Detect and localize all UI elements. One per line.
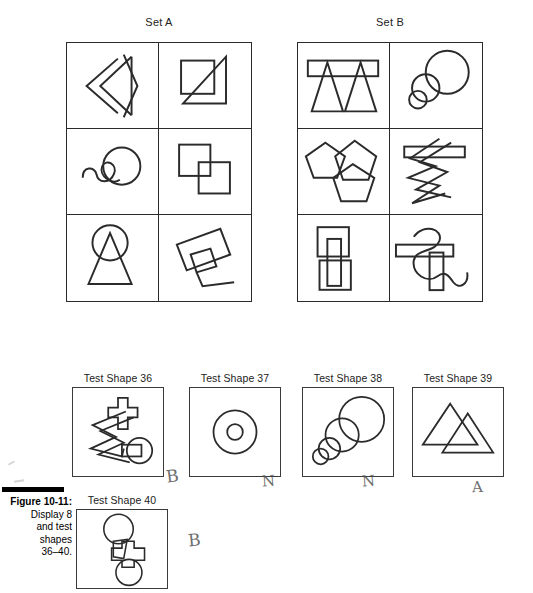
test-shape-36-box bbox=[72, 387, 164, 477]
test-shape-40-box bbox=[76, 509, 168, 589]
test-shape-38-box bbox=[302, 387, 394, 477]
caption-rule bbox=[2, 487, 64, 492]
handwritten-answer-36: B bbox=[165, 465, 180, 487]
set-b-grid bbox=[297, 42, 483, 302]
set-a-cell-circle-with-triangle bbox=[67, 215, 159, 301]
test-shape-40-label: Test Shape 40 bbox=[68, 494, 176, 506]
handwritten-answer-38: N bbox=[361, 472, 375, 491]
set-a-cell-squiggle-with-circle bbox=[67, 129, 159, 215]
handwritten-answer-40: B bbox=[187, 529, 202, 550]
set-b-label: Set B bbox=[297, 16, 483, 28]
caption-title: Figure 10-11: bbox=[0, 496, 72, 509]
scan-artifact-lower bbox=[14, 479, 24, 482]
handwritten-answer-37: N bbox=[261, 472, 275, 491]
test-shape-39-box bbox=[412, 387, 504, 477]
figure-caption: Figure 10-11: Display 8 and test shapes … bbox=[0, 496, 72, 559]
set-a-grid bbox=[66, 42, 252, 302]
set-b-cell-zigzag-with-bar bbox=[390, 129, 482, 215]
caption-line-2: and test bbox=[0, 521, 72, 534]
set-b-cell-two-triangles-with-bar bbox=[298, 43, 390, 129]
test-shape-37-box bbox=[189, 387, 281, 477]
test-shape-40: Test Shape 40 bbox=[68, 494, 176, 589]
set-b-cell-squares-with-bar bbox=[298, 215, 390, 301]
caption-line-4: 36–40. bbox=[0, 546, 72, 559]
set-a-cell-two-overlapping-squares bbox=[159, 129, 251, 215]
caption-line-1: Display 8 bbox=[0, 509, 72, 522]
test-shape-37: Test Shape 37 bbox=[185, 372, 285, 477]
test-shape-38-label: Test Shape 38 bbox=[298, 372, 398, 384]
test-shape-38: Test Shape 38 bbox=[298, 372, 398, 477]
test-shape-39: Test Shape 39 bbox=[408, 372, 508, 477]
scan-artifact-upper bbox=[8, 460, 15, 465]
test-shape-36-label: Test Shape 36 bbox=[68, 372, 168, 384]
caption-line-3: shapes bbox=[0, 534, 72, 547]
set-b-cell-three-circles-chain bbox=[390, 43, 482, 129]
test-shape-37-label: Test Shape 37 bbox=[185, 372, 285, 384]
set-b-cell-snake-with-bars bbox=[390, 215, 482, 301]
set-b-cell-three-pentagons bbox=[298, 129, 390, 215]
set-a-label: Set A bbox=[66, 16, 252, 28]
set-a-cell-tilted-rectangles bbox=[159, 215, 251, 301]
set-a-cell-square-with-triangle bbox=[159, 43, 251, 129]
test-shape-39-label: Test Shape 39 bbox=[408, 372, 508, 384]
handwritten-answer-39: A bbox=[472, 478, 484, 497]
set-a-cell-nested-chevrons bbox=[67, 43, 159, 129]
figure-page: Set A bbox=[0, 0, 533, 593]
test-shape-36: Test Shape 36 bbox=[68, 372, 168, 477]
